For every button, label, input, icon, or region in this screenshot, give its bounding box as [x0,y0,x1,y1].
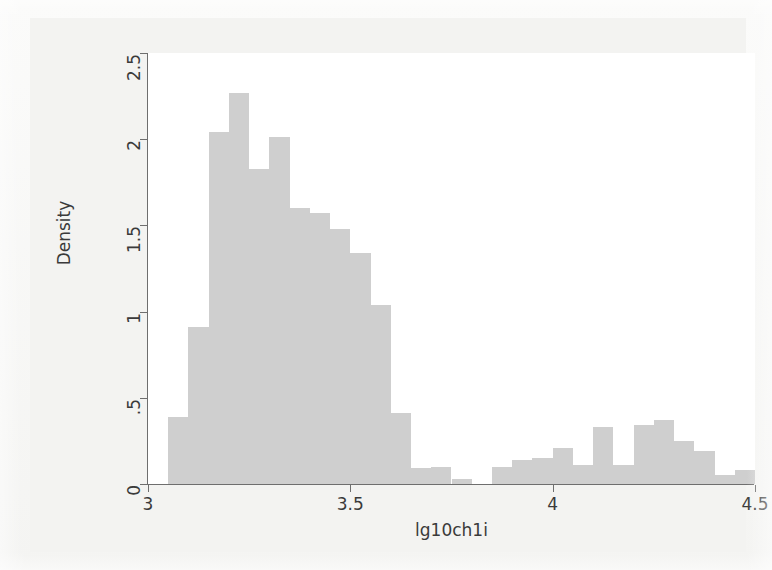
histogram-bar [249,169,269,484]
histogram-bar [573,465,593,484]
figure: 0.511.522.5 33.544.5 Density lg10ch1i [0,0,772,570]
graph-region: 0.511.522.5 33.544.5 Density lg10ch1i [30,18,746,552]
histogram-bar [350,253,370,484]
histogram-bar [168,417,188,484]
histogram-bar [694,451,714,484]
histogram-bar [593,427,613,484]
histogram-bar [715,475,735,484]
histogram-bar [310,213,330,484]
y-tick-label: 2.5 [124,54,144,81]
histogram-bar [492,467,512,484]
x-tick-label: 4 [523,494,583,514]
x-tick-mark [350,485,351,492]
histogram-bar [371,305,391,484]
y-tick-label: .5 [124,399,144,415]
histogram-bar [634,425,654,484]
histogram-bar [391,413,411,484]
x-tick-mark [148,485,149,492]
y-tick-label: 1.5 [124,226,144,253]
x-axis-line [147,484,754,485]
histogram-bar [532,458,552,484]
x-tick-label: 3.5 [320,494,380,514]
histogram-bar [512,460,532,484]
histogram-bar [431,467,451,484]
plot-area [148,53,755,484]
histogram-bar [613,465,633,484]
x-tick-label: 3 [118,494,178,514]
histogram-bar [209,132,229,484]
histogram-bar [290,208,310,484]
y-axis-line [147,53,148,485]
x-tick-label: 4.5 [725,494,772,514]
y-tick-label: 2 [124,140,144,151]
x-axis-title: lg10ch1i [148,520,755,540]
histogram-bar [654,420,674,484]
x-tick-mark [553,485,554,492]
histogram-bar [674,441,694,484]
histogram-bar [735,470,755,484]
histogram-bar [269,137,289,484]
histogram-bar [188,327,208,484]
y-tick-label: 1 [124,313,144,324]
histogram-bar [411,468,431,484]
histogram-bar [229,93,249,484]
histogram-bar [553,448,573,484]
y-axis-title: Density [54,163,74,303]
histogram-bar [330,229,350,484]
x-tick-mark [755,485,756,492]
